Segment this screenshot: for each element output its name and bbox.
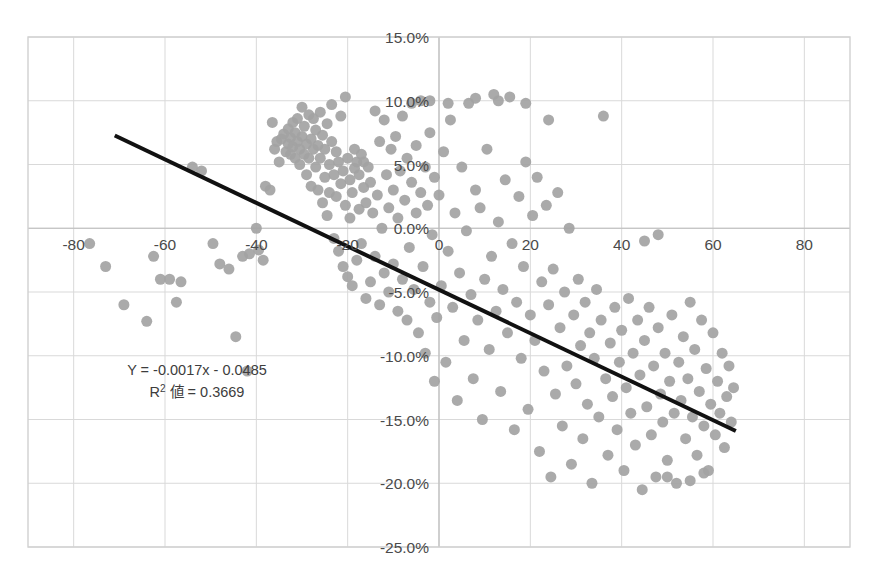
r-squared-label: R2 値 = 0.3669 [149,383,244,400]
gridlines [28,37,850,547]
x-tick-label: 20 [522,236,540,253]
x-tick-label: -20 [336,236,359,253]
x-tick-label: -60 [154,236,177,253]
y-tick-label: 15.0% [385,29,429,46]
y-tick-label: -5.0% [389,284,430,301]
x-tick-label: 80 [796,236,814,253]
chart-canvas: -80-60-40-20020406080 15.0%10.0%5.0%0.0%… [0,0,876,578]
y-tick-label: 0.0% [394,220,430,237]
x-axis-tick-labels: -80-60-40-20020406080 [62,236,813,253]
regression-annotation: Y = -0.0017x - 0.0485R2 値 = 0.3669 [127,362,267,400]
y-tick-label: -15.0% [380,412,429,429]
y-tick-label: -20.0% [380,475,429,492]
x-tick-label: 40 [613,236,631,253]
y-tick-label: 10.0% [385,93,429,110]
y-tick-label: 5.0% [394,157,430,174]
regression-equation: Y = -0.0017x - 0.0485 [127,362,267,378]
y-tick-label: -25.0% [380,539,429,556]
y-tick-label: -10.0% [380,348,429,365]
x-tick-label: -40 [245,236,268,253]
x-tick-label: -80 [62,236,85,253]
scatter-chart: -80-60-40-20020406080 15.0%10.0%5.0%0.0%… [0,0,876,578]
x-tick-label: 60 [704,236,722,253]
x-tick-label: 0 [435,236,444,253]
